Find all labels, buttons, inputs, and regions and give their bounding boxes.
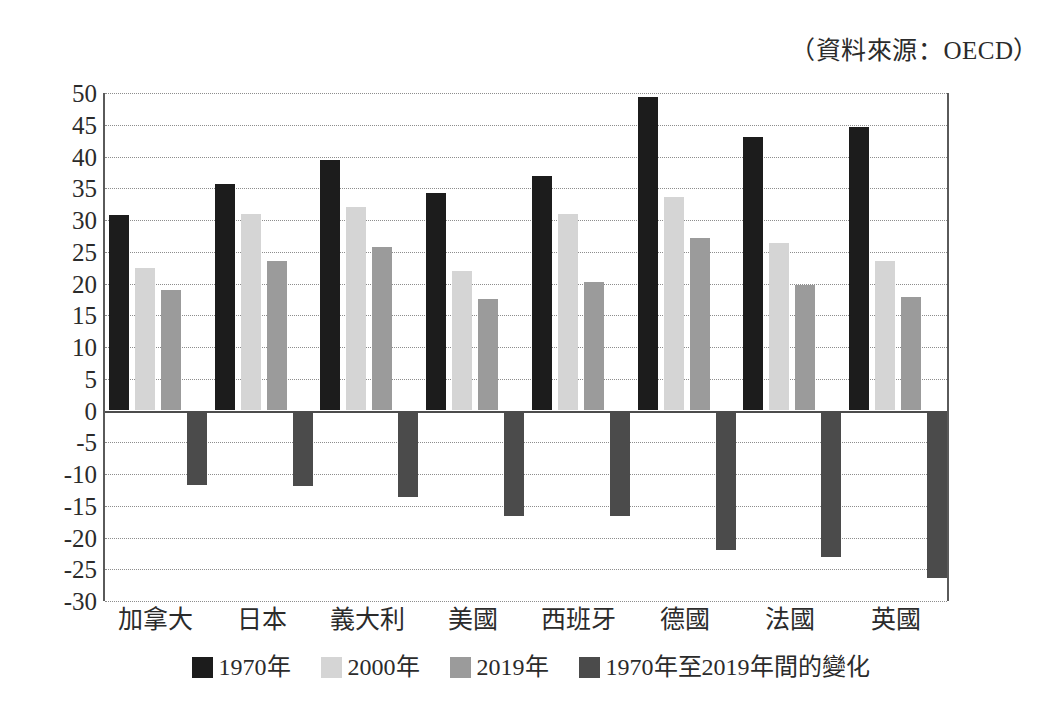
legend-item[interactable]: 1970年至2019年間的變化: [579, 655, 870, 679]
y-tick-label: 40: [5, 144, 97, 169]
x-tick-label: 美國: [448, 603, 498, 637]
bar-group: [634, 93, 740, 601]
x-axis-category-labels: 加拿大日本義大利美國西班牙德國法國英國: [103, 603, 949, 639]
legend-label: 2000年: [348, 655, 420, 679]
legend-swatch-icon: [450, 657, 471, 678]
legend-swatch-icon: [579, 657, 600, 678]
bar: [664, 197, 684, 410]
legend-item[interactable]: 2000年: [321, 655, 420, 679]
y-tick-label: 0: [5, 398, 97, 423]
bar: [795, 285, 815, 411]
bar: [109, 215, 129, 411]
bars-layer: [105, 93, 947, 601]
bar: [638, 97, 658, 410]
bar: [690, 238, 710, 410]
y-axis-tick-labels: 50454035302520151050-5-10-15-20-25-30: [0, 93, 97, 601]
bar: [452, 271, 472, 410]
legend-item[interactable]: 2019年: [450, 655, 549, 679]
bar: [716, 411, 736, 551]
bar: [346, 207, 366, 410]
bar: [849, 127, 869, 411]
bar: [372, 247, 392, 411]
bar-group: [211, 93, 317, 601]
bar: [215, 184, 235, 410]
plot-area: [103, 93, 949, 601]
bar: [135, 268, 155, 410]
y-tick-label: -30: [5, 589, 97, 614]
y-tick-label: 15: [5, 303, 97, 328]
y-tick-label: 35: [5, 176, 97, 201]
bar-group: [317, 93, 423, 601]
legend-item[interactable]: 1970年: [192, 655, 291, 679]
bar: [901, 297, 921, 411]
y-tick-label: 20: [5, 271, 97, 296]
bar: [769, 243, 789, 410]
gridline--30: [105, 601, 947, 602]
bar-group: [105, 93, 211, 601]
x-tick-label: 義大利: [330, 603, 405, 637]
y-tick-label: 30: [5, 208, 97, 233]
bar: [532, 176, 552, 411]
y-tick-label: -20: [5, 525, 97, 550]
x-tick-label: 英國: [871, 603, 921, 637]
x-tick-label: 加拿大: [118, 603, 193, 637]
y-tick-label: -5: [5, 430, 97, 455]
chart-legend: 1970年2000年2019年1970年至2019年間的變化: [0, 655, 1061, 679]
bar: [267, 261, 287, 411]
x-tick-label: 日本: [237, 603, 287, 637]
legend-label: 1970年至2019年間的變化: [606, 655, 870, 679]
x-tick-label: 法國: [765, 603, 815, 637]
bar: [584, 282, 604, 411]
bar: [478, 299, 498, 411]
legend-label: 2019年: [477, 655, 549, 679]
bar: [293, 411, 313, 487]
y-tick-label: 10: [5, 335, 97, 360]
bar: [743, 137, 763, 411]
legend-swatch-icon: [321, 657, 342, 678]
chart-figure: （資料來源：OECD） 50454035302520151050-5-10-15…: [0, 0, 1061, 722]
y-tick-label: -25: [5, 557, 97, 582]
bar-group: [740, 93, 846, 601]
y-tick-label: -15: [5, 493, 97, 518]
bar: [821, 411, 841, 558]
legend-swatch-icon: [192, 657, 213, 678]
x-tick-label: 西班牙: [541, 603, 616, 637]
y-tick-label: 45: [5, 112, 97, 137]
x-tick-label: 德國: [660, 603, 710, 637]
y-tick-label: 25: [5, 239, 97, 264]
bar: [398, 411, 418, 498]
bar: [927, 411, 947, 579]
bar-group: [422, 93, 528, 601]
bar: [320, 160, 340, 411]
bar: [241, 214, 261, 411]
y-tick-label: 5: [5, 366, 97, 391]
y-tick-label: 50: [5, 81, 97, 106]
y-tick-label: -10: [5, 462, 97, 487]
bar: [875, 261, 895, 410]
bar: [187, 411, 207, 486]
bar-group: [845, 93, 951, 601]
bar: [504, 411, 524, 516]
bar-group: [528, 93, 634, 601]
source-note: （資料來源：OECD）: [790, 30, 1039, 66]
bar: [558, 214, 578, 410]
bar: [610, 411, 630, 516]
bar: [426, 193, 446, 411]
bar: [161, 290, 181, 411]
legend-label: 1970年: [219, 655, 291, 679]
